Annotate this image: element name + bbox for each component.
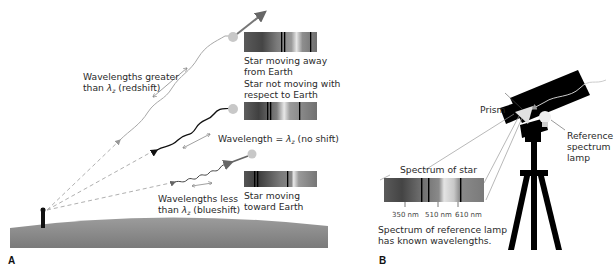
text: than [158, 204, 182, 215]
redshift-label-line1: Wavelengths greater [83, 71, 179, 82]
star-toward-line1: Star moving [244, 190, 303, 201]
sight-lines [47, 140, 175, 210]
spectrum-star-away [244, 32, 317, 52]
blueshift-label: Wavelengths less than λz (blueshift) [158, 193, 240, 218]
blueshift-label-line2: than λz (blueshift) [158, 204, 240, 218]
star-toward-label: Star moving toward Earth [244, 190, 303, 212]
noshift-label: Wavelength = λz (no shift) [218, 133, 339, 147]
text: (blueshift) [190, 204, 240, 215]
tripod [508, 140, 562, 250]
blueshift-label-line1: Wavelengths less [158, 193, 240, 204]
spectrum-star-with-reference [384, 178, 484, 207]
text: than [83, 82, 107, 93]
spectrum-of-star-label: Spectrum of star [400, 164, 477, 175]
lamp-label-line2: spectrum [567, 141, 613, 152]
doppler-diagram: Wavelengths greater than λz (redshift) S… [0, 0, 614, 273]
panel-a-label: A [8, 255, 15, 266]
caption-line1: Spectrum of reference lamp [378, 224, 507, 235]
panel-b-label: B [379, 255, 386, 266]
star-still-label: Star not moving with respect to Earth [244, 78, 340, 100]
earth-ground [10, 217, 328, 248]
text: (no shift) [295, 133, 339, 144]
prism-label: Prism [480, 104, 505, 115]
spectrum-star-toward [244, 171, 317, 187]
tick-350nm: 350 nm [392, 210, 419, 221]
star-away-line1: Star moving away [244, 55, 327, 66]
blueshift-wave [175, 162, 232, 182]
star-still-line2: respect to Earth [244, 89, 340, 100]
spectrum-star-stationary [244, 102, 317, 120]
observer-icon [41, 208, 46, 229]
text: Wavelength = [218, 133, 286, 144]
lamp-label-line1: Reference [567, 130, 613, 141]
text: (redshift) [115, 82, 160, 93]
star-still-line1: Star not moving with [244, 78, 340, 89]
tick-510nm: 510 nm [425, 210, 452, 221]
star-away-label: Star moving away from Earth [244, 55, 327, 77]
star-stationary [228, 104, 238, 114]
tick-610nm: 610 nm [455, 210, 482, 221]
reference-caption: Spectrum of reference lamp has known wav… [378, 224, 507, 246]
reference-lamp-label: Reference spectrum lamp [567, 130, 613, 163]
star-toward-line2: toward Earth [244, 201, 303, 212]
caption-line2: has known wavelengths. [378, 235, 507, 246]
redshift-label: Wavelengths greater than λz (redshift) [83, 71, 179, 96]
star-away-line2: from Earth [244, 66, 327, 77]
redshift-label-line2: than λz (redshift) [83, 82, 179, 96]
star-moving-away [228, 32, 238, 42]
star-moving-toward [248, 150, 257, 159]
lamp-label-line3: lamp [567, 152, 613, 163]
